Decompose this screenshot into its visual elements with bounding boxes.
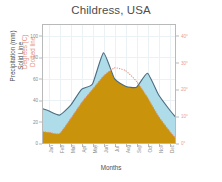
x-axis-label: Months	[0, 164, 222, 171]
y-axis-right-tick: 30°	[181, 60, 188, 65]
plot-area	[42, 24, 176, 144]
y-axis-right-label: Degrees (C) Dotted line	[21, 7, 37, 97]
y-axis-right-label-line1: Degrees (C)	[21, 7, 29, 97]
y-axis-left-tick: 40	[33, 98, 38, 103]
y-axis-left-label-line1: Precipitation (mm)	[9, 1, 17, 111]
y-axis-right-tick: 20°	[181, 87, 188, 92]
x-axis-tick-apr: Apr	[82, 145, 87, 152]
y-axis-right-tick: 40°	[181, 33, 188, 38]
plot-canvas	[43, 25, 175, 143]
x-axis-tick-mar: Mar	[71, 145, 76, 153]
y-axis-right-label-line2: Dotted line	[29, 7, 37, 97]
x-axis-tick-feb: Feb	[60, 145, 65, 153]
x-axis-tick-sep: Sep	[137, 145, 142, 153]
y-axis-left-tick: 20	[33, 119, 38, 124]
x-axis-tick-oct: Oct	[148, 145, 153, 152]
x-axis-tick-jun: Jun	[104, 145, 109, 152]
y-axis-left-tick: 0	[35, 141, 38, 146]
x-axis-tick-jul: Jul	[115, 146, 120, 152]
x-axis-tick-aug: Aug	[126, 145, 131, 153]
y-axis-right: 0°10°20°30°40°	[176, 24, 222, 144]
x-axis-tick-nov: Nov	[159, 145, 164, 153]
climate-chart-figure: Childress, USA 020406080100 Precipitatio…	[0, 0, 222, 182]
y-axis-right-tick: 10°	[181, 114, 188, 119]
x-axis-ticks: JanFebMarAprMayJunJulAugSepOctNovDec	[42, 144, 176, 162]
x-axis-tick-jan: Jan	[49, 145, 54, 152]
y-axis-right-tick: 0°	[181, 141, 185, 146]
x-axis-tick-dec: Dec	[170, 145, 175, 153]
x-axis-tick-may: May	[93, 145, 98, 154]
